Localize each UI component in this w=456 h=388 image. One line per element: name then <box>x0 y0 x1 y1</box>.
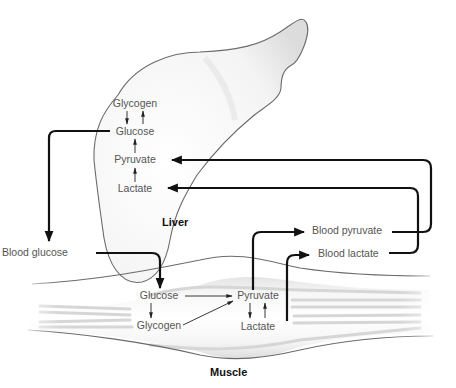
cori-cycle-diagram: Glycogen Glucose Pyruvate Lactate Liver … <box>0 0 456 388</box>
blood-lactate-to-liver-arrow <box>168 188 418 253</box>
liver-glycogen-label: Glycogen <box>113 97 158 109</box>
muscle-glucose-label: Glucose <box>140 289 179 301</box>
liver-pyruvate-label: Pyruvate <box>114 153 156 165</box>
liver-lactate-label: Lactate <box>118 182 153 194</box>
blood-glucose-label: Blood glucose <box>2 246 68 258</box>
liver <box>94 19 308 282</box>
blood-pyruvate-to-liver-arrow <box>172 160 431 232</box>
liver-label: Liver <box>162 216 189 228</box>
muscle-lactate-label: Lactate <box>241 320 276 332</box>
muscle-pyruvate-label: Pyruvate <box>237 289 279 301</box>
muscle-label: Muscle <box>210 366 247 378</box>
blood-lactate-label: Blood lactate <box>318 247 379 259</box>
blood-pyruvate-label: Blood pyruvate <box>312 224 382 236</box>
muscle-glycogen-label: Glycogen <box>137 319 182 331</box>
liver-glucose-label: Glucose <box>116 125 155 137</box>
